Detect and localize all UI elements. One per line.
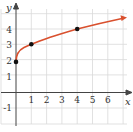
x-tick-labels: 1 2 3 4 5 6 [28, 95, 111, 105]
point-0-2 [14, 60, 19, 65]
point-1-3 [29, 42, 34, 47]
svg-text:4: 4 [74, 95, 80, 105]
x-axis-label: x [125, 96, 131, 107]
svg-text:-1: -1 [3, 103, 12, 113]
function-curve [16, 19, 122, 62]
svg-text:3: 3 [59, 95, 65, 105]
svg-text:1: 1 [6, 72, 12, 82]
axes [1, 3, 132, 126]
curve-arrow-icon [121, 15, 128, 21]
svg-text:1: 1 [28, 95, 34, 105]
svg-text:2: 2 [6, 56, 12, 66]
y-axis-arrow-icon [14, 3, 19, 9]
svg-text:6: 6 [105, 95, 111, 105]
y-tick-labels: -1 1 2 3 4 [3, 25, 12, 113]
grid [1, 9, 127, 124]
svg-text:4: 4 [6, 25, 12, 35]
y-axis-label: y [5, 2, 12, 13]
point-4-4 [75, 27, 80, 32]
svg-text:3: 3 [6, 40, 12, 50]
svg-text:2: 2 [44, 95, 50, 105]
svg-text:5: 5 [90, 95, 96, 105]
x-axis-arrow-icon [126, 90, 132, 95]
function-graph: y x 1 2 3 4 5 6 -1 1 2 3 4 [0, 0, 133, 132]
